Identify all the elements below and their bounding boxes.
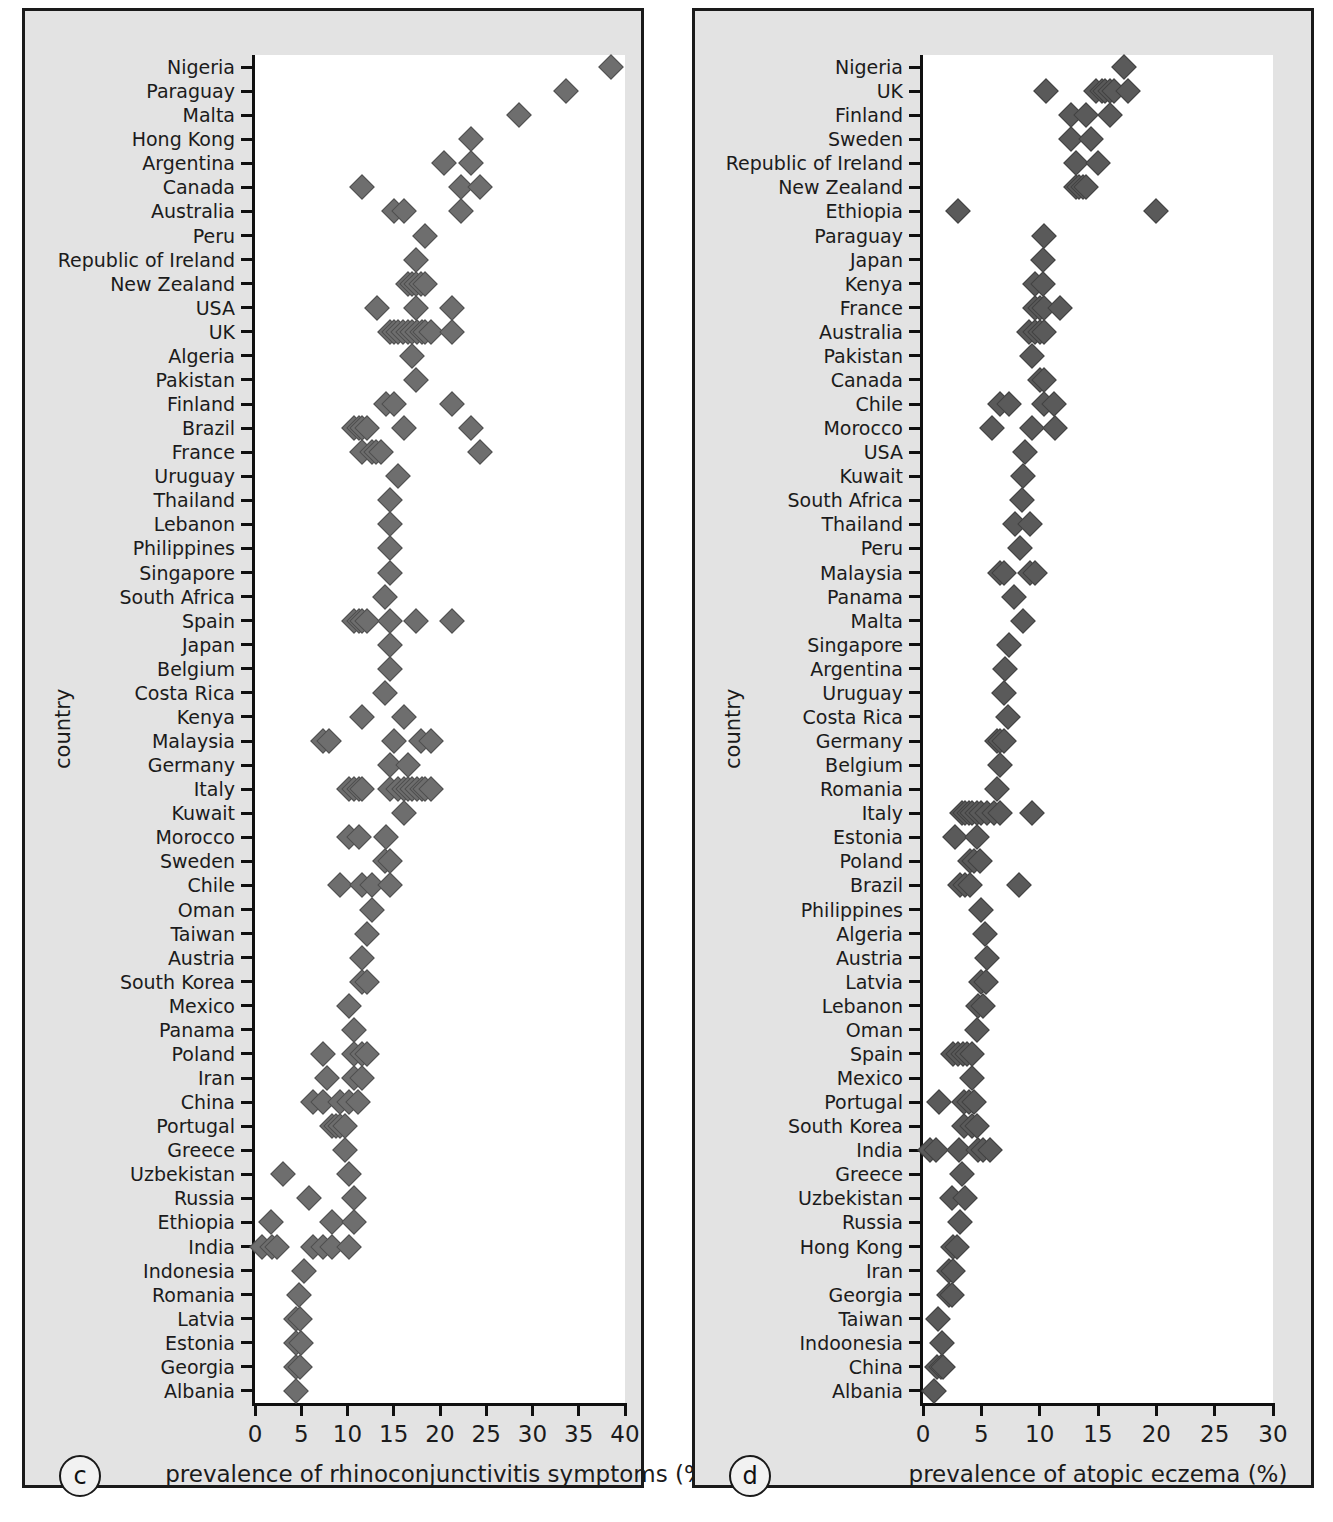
y-axis-label: Malta [25,106,235,125]
y-tick-c [241,282,252,285]
y-tick-d [909,860,920,863]
y-axis-label: India [695,1141,903,1160]
y-axis-label: Georgia [695,1285,903,1304]
y-tick-c [241,378,252,381]
y-tick-c [241,114,252,117]
y-axis-label: Pakistan [695,346,903,365]
y-tick-c [241,523,252,526]
y-axis-label: Singapore [25,563,235,582]
y-tick-c [241,860,252,863]
y-tick-d [909,571,920,574]
y-axis-label: Pakistan [25,370,235,389]
y-tick-d [909,1004,920,1007]
x-axis-tick-label: 20 [1142,1421,1171,1447]
x-axis-tick-label: 10 [333,1421,362,1447]
x-tick-d [980,1403,983,1416]
y-tick-d [909,1317,920,1320]
y-tick-c [241,1101,252,1104]
y-tick-c [241,1317,252,1320]
y-tick-d [909,330,920,333]
x-axis-tick-label: 0 [248,1421,263,1447]
y-tick-d [909,499,920,502]
panel-c-tag: c [59,1455,101,1497]
y-tick-d [909,186,920,189]
y-axis-label: Japan [695,250,903,269]
y-axis-label: Philippines [695,900,903,919]
x-tick-d [1155,1403,1158,1416]
y-tick-c [241,932,252,935]
y-tick-d [909,378,920,381]
x-tick-d [1272,1403,1275,1416]
x-tick-c [577,1403,580,1416]
y-tick-c [241,1269,252,1272]
y-axis-label: Albania [695,1381,903,1400]
figure-root: country prevalence of rhinoconjunctiviti… [0,0,1333,1522]
y-tick-c [241,908,252,911]
x-axis-tick-label: 25 [1200,1421,1229,1447]
y-tick-d [909,1101,920,1104]
x-tick-c [531,1403,534,1416]
y-tick-c [241,547,252,550]
y-tick-d [909,90,920,93]
y-axis-label: Russia [695,1213,903,1232]
y-axis-label: USA [695,443,903,462]
y-axis-label: India [25,1237,235,1256]
panel-d-tag: d [729,1455,771,1497]
y-tick-c [241,234,252,237]
y-axis-label: USA [25,298,235,317]
y-axis-label: Belgium [25,659,235,678]
y-axis-label: Morocco [25,828,235,847]
x-tick-d [1097,1403,1100,1416]
y-axis-label: Spain [25,611,235,630]
y-tick-d [909,1269,920,1272]
y-tick-c [241,354,252,357]
y-tick-d [909,884,920,887]
y-tick-c [241,667,252,670]
y-axis-label: Hong Kong [25,130,235,149]
y-tick-c [241,1052,252,1055]
y-tick-c [241,1028,252,1031]
y-tick-d [909,1221,920,1224]
y-axis-label: Portugal [695,1093,903,1112]
x-tick-d [1213,1403,1216,1416]
y-tick-d [909,980,920,983]
y-tick-d [909,932,920,935]
y-axis-label: Greece [695,1165,903,1184]
y-axis-label: Uzbekistan [695,1189,903,1208]
y-axis-label: New Zealand [695,178,903,197]
panel-d-plot-area [923,55,1273,1403]
y-axis-label: Russia [25,1189,235,1208]
y-tick-c [241,812,252,815]
x-axis-tick-label: 20 [425,1421,454,1447]
y-axis-label: Latvia [25,1309,235,1328]
y-tick-c [241,306,252,309]
y-axis-label: China [25,1093,235,1112]
y-axis-label: Philippines [25,539,235,558]
y-axis-label: Brazil [695,876,903,895]
y-axis-label: Oman [695,1020,903,1039]
x-tick-c [346,1403,349,1416]
y-tick-d [909,595,920,598]
y-axis-label: Peru [695,539,903,558]
y-axis-label: Belgium [695,756,903,775]
y-axis-label: Austria [25,948,235,967]
y-axis-label: South Korea [25,972,235,991]
y-tick-c [241,475,252,478]
x-tick-c [439,1403,442,1416]
y-tick-c [241,1341,252,1344]
y-axis-label: Albania [25,1381,235,1400]
y-tick-d [909,403,920,406]
y-axis-label: Canada [25,178,235,197]
y-tick-d [909,210,920,213]
y-axis-label: Peru [25,226,235,245]
x-axis-tick-label: 5 [294,1421,309,1447]
y-axis-label: Australia [25,202,235,221]
y-axis-label: Italy [695,804,903,823]
y-tick-d [909,523,920,526]
panel-d: country prevalence of atopic eczema (%) … [692,8,1314,1488]
y-tick-c [241,138,252,141]
x-axis-tick-label: 30 [1258,1421,1287,1447]
y-axis-label: Malaysia [695,563,903,582]
y-tick-d [909,1341,920,1344]
y-axis-label: Paraguay [25,82,235,101]
